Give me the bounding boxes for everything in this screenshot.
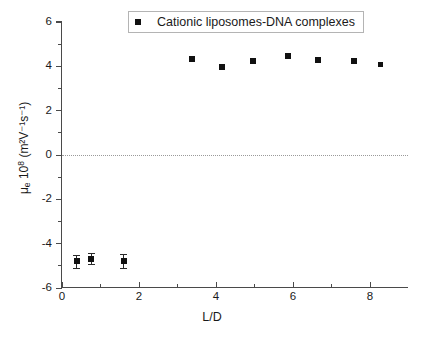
x-axis-title: L/D [0, 310, 424, 324]
y-tick-label: 0 [12, 149, 52, 161]
zero-reference-line [62, 155, 408, 156]
y-axis-spine [61, 23, 62, 289]
y-tick-major [56, 110, 62, 111]
data-point-marker [351, 58, 357, 64]
y-tick-major [56, 199, 62, 200]
data-point-marker [88, 256, 94, 262]
x-tick-label: 8 [355, 291, 385, 303]
x-tick-label: 6 [278, 291, 308, 303]
y-axis-title-subscript: e [22, 182, 32, 187]
error-bar-cap [88, 253, 95, 254]
error-bar-cap [73, 268, 80, 269]
y-axis-title-exponent: 8 [16, 161, 26, 166]
data-point-marker [378, 62, 383, 67]
y-tick-major [56, 21, 62, 22]
x-tick-label: 0 [47, 291, 77, 303]
y-tick-label: -2 [12, 193, 52, 205]
chart-figure: μe 108 (m²V⁻¹s⁻¹) L/D -6-4-20246 02468 C… [0, 0, 424, 337]
data-point-marker [189, 56, 195, 62]
error-bar-cap [88, 264, 95, 265]
y-axis-title-factor: 10 [17, 166, 31, 179]
data-point-marker [219, 64, 225, 70]
x-tick-minor [254, 284, 255, 288]
y-tick-minor [58, 265, 62, 266]
y-tick-minor [58, 177, 62, 178]
y-tick-minor [58, 88, 62, 89]
error-bar-cap [73, 255, 80, 256]
y-tick-label: 2 [12, 105, 52, 117]
error-bar-cap [120, 268, 127, 269]
legend-marker-square-icon [135, 19, 141, 25]
y-tick-minor [58, 132, 62, 133]
x-tick-major [293, 282, 294, 288]
legend-entry-label: Cationic liposomes-DNA complexes [157, 16, 355, 29]
x-tick-minor [177, 284, 178, 288]
y-tick-minor [58, 221, 62, 222]
x-tick-major [139, 282, 140, 288]
y-tick-label: -6 [12, 282, 52, 294]
chart-legend: Cationic liposomes-DNA complexes [128, 11, 364, 33]
data-point-marker [250, 58, 256, 64]
x-tick-label: 4 [201, 291, 231, 303]
x-tick-major [62, 282, 63, 288]
x-tick-major [370, 282, 371, 288]
y-tick-label: -4 [12, 238, 52, 250]
x-axis-spine [61, 287, 408, 288]
error-bar-cap [120, 254, 127, 255]
data-point-marker [121, 258, 127, 264]
x-tick-minor [100, 284, 101, 288]
y-tick-label: 4 [12, 60, 52, 72]
y-tick-major [56, 66, 62, 67]
x-tick-major [216, 282, 217, 288]
y-tick-label: 6 [12, 16, 52, 28]
data-point-marker [315, 57, 321, 63]
data-point-marker [74, 258, 80, 264]
x-tick-minor [331, 284, 332, 288]
x-tick-label: 2 [124, 291, 154, 303]
y-tick-minor [58, 44, 62, 45]
data-point-marker [285, 53, 291, 59]
y-tick-major [56, 243, 62, 244]
